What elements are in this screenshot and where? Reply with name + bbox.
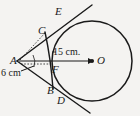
point-label-D: D xyxy=(57,95,65,106)
point-label-B: B xyxy=(47,85,54,96)
point-label-A: A xyxy=(10,55,17,66)
leader-line-6cm xyxy=(21,66,34,71)
center-point-dot xyxy=(90,59,94,63)
geometry-diagram-canvas xyxy=(0,0,140,116)
measurement-label-AO: 15 cm. xyxy=(53,47,80,57)
point-label-C: C xyxy=(38,25,45,36)
geometry-figure: A C E F B D O 15 cm. 6 cm xyxy=(0,0,140,116)
point-label-F: F xyxy=(52,64,59,75)
measurement-label-AC: 6 cm xyxy=(1,68,21,78)
dashed-line-A-to-C xyxy=(20,33,45,60)
point-label-O: O xyxy=(97,55,105,66)
point-label-E: E xyxy=(55,6,62,17)
